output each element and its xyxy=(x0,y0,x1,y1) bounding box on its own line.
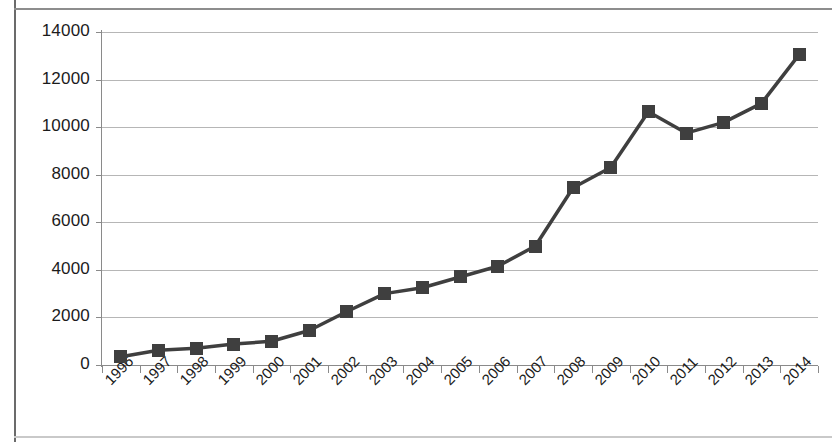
figure-border-bottom xyxy=(14,436,832,438)
data-point-marker xyxy=(680,127,693,140)
plot-area xyxy=(102,32,818,365)
gridline xyxy=(102,175,818,176)
x-axis-tick xyxy=(554,366,555,373)
gridline xyxy=(102,127,818,128)
gridline xyxy=(102,317,818,318)
data-point-marker xyxy=(642,105,655,118)
x-axis-tick xyxy=(705,366,706,373)
chart-figure: 02000400060008000100001200014000 1996199… xyxy=(0,0,832,442)
y-axis-tick-labels: 02000400060008000100001200014000 xyxy=(0,0,90,442)
y-axis-tick-label: 0 xyxy=(80,354,90,374)
y-axis-tick xyxy=(96,80,102,81)
y-axis-tick xyxy=(96,175,102,176)
data-point-marker xyxy=(717,116,730,129)
x-axis-tick xyxy=(592,366,593,373)
y-axis-tick-label: 12000 xyxy=(42,69,90,89)
y-axis-tick xyxy=(96,32,102,33)
y-axis-tick-label: 2000 xyxy=(51,306,90,326)
data-point-marker xyxy=(378,287,391,300)
x-axis-tick xyxy=(253,366,254,373)
x-axis-tick xyxy=(818,366,819,373)
data-point-marker xyxy=(227,338,240,351)
x-axis-tick xyxy=(479,366,480,373)
x-axis-tick xyxy=(366,366,367,373)
y-axis-tick-label: 4000 xyxy=(51,259,90,279)
data-point-marker xyxy=(303,324,316,337)
x-axis-tick xyxy=(102,366,103,373)
y-axis-tick-label: 10000 xyxy=(42,116,90,136)
y-axis-tick xyxy=(96,127,102,128)
gridline xyxy=(102,32,818,33)
figure-border-top xyxy=(14,8,832,10)
y-axis-tick xyxy=(96,270,102,271)
data-point-marker xyxy=(604,161,617,174)
data-point-marker xyxy=(755,97,768,110)
data-point-marker xyxy=(265,335,278,348)
x-axis-tick xyxy=(441,366,442,373)
data-point-marker xyxy=(567,181,580,194)
gridline xyxy=(102,222,818,223)
y-axis-tick-label: 8000 xyxy=(51,164,90,184)
data-point-marker xyxy=(529,240,542,253)
x-axis-tick xyxy=(140,366,141,373)
data-point-marker xyxy=(454,270,467,283)
data-point-marker xyxy=(190,342,203,355)
y-axis-tick-label: 6000 xyxy=(51,211,90,231)
y-axis-tick xyxy=(96,317,102,318)
data-point-marker xyxy=(793,48,806,61)
data-point-marker xyxy=(152,344,165,357)
y-axis-tick xyxy=(96,222,102,223)
gridline xyxy=(102,80,818,81)
data-point-marker xyxy=(491,260,504,273)
data-point-marker xyxy=(340,305,353,318)
data-point-marker xyxy=(114,350,127,363)
y-axis-tick-label: 14000 xyxy=(42,21,90,41)
x-axis-tick xyxy=(215,366,216,373)
x-axis-tick xyxy=(328,366,329,373)
data-point-marker xyxy=(416,281,429,294)
